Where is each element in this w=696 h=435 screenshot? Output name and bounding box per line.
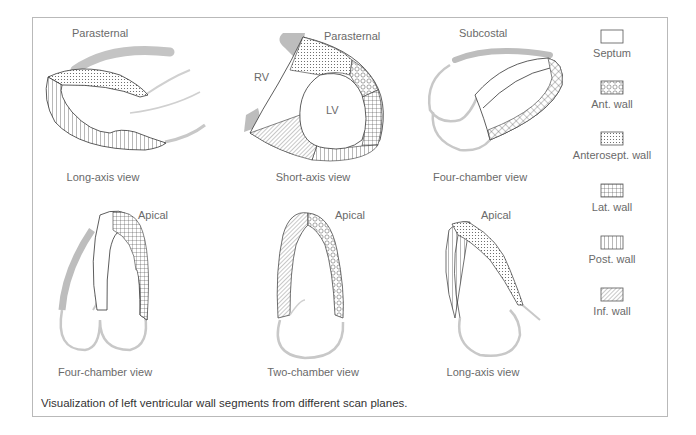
legend-label-ant-wall: Ant. wall: [591, 98, 633, 110]
panel-window-label: Subcostal: [459, 27, 507, 39]
panel-view-label: Long-axis view: [67, 171, 140, 183]
panel-view-label: Four-chamber view: [58, 366, 152, 378]
panel-window-label: Apical: [335, 209, 365, 221]
legend-swatch-inf-wall: [601, 288, 623, 301]
parasternal-short-axis-diagram: [244, 33, 383, 161]
panel-view-label: Four-chamber view: [433, 171, 527, 183]
subcostal-four-chamber-diagram: [429, 51, 562, 150]
legend-swatch-ant-wall: [601, 81, 623, 94]
panel-window-label: Apical: [138, 209, 168, 221]
legend-label-post-wall: Post. wall: [588, 253, 635, 265]
legend-swatch-lat-wall: [601, 184, 623, 197]
rv-label: RV: [254, 71, 269, 83]
panel-view-label: Two-chamber view: [267, 366, 359, 378]
apical-long-axis-diagram: [446, 222, 540, 356]
panel-window-label: Apical: [481, 209, 511, 221]
legend-label-lat-wall: Lat. wall: [592, 201, 632, 213]
panel-view-label: Short-axis view: [276, 171, 351, 183]
panel-window-label: Parasternal: [324, 30, 380, 42]
panel-window-label: Parasternal: [72, 27, 128, 39]
apical-two-chamber-diagram: [277, 213, 343, 358]
legend-label-anterosept-wall: Anterosept. wall: [573, 149, 651, 161]
figure-caption: Visualization of left ventricular wall s…: [41, 397, 407, 409]
legend-swatch-anterosept-wall: [601, 132, 623, 145]
legend-swatch-septum: [601, 30, 623, 43]
legend-label-inf-wall: Inf. wall: [593, 305, 630, 317]
parasternal-long-axis-diagram: [46, 50, 205, 150]
legend-label-septum: Septum: [593, 47, 631, 59]
legend-swatch-post-wall: [601, 236, 623, 249]
lv-label: LV: [326, 104, 339, 116]
apical-four-chamber-diagram: [61, 211, 149, 350]
panel-view-label: Long-axis view: [447, 366, 520, 378]
